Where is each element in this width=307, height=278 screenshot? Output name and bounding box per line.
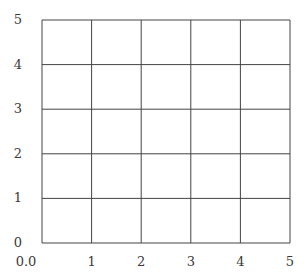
y-tick-label: 2	[11, 147, 25, 160]
y-tick-label: 3	[11, 102, 25, 115]
x-tick-label: 2	[127, 255, 155, 268]
coordinate-grid	[0, 0, 307, 278]
y-tick-label: 1	[11, 191, 25, 204]
x-tick-label: 1	[78, 255, 106, 268]
x-tick-label: 5	[276, 255, 304, 268]
y-tick-label: 0	[11, 236, 25, 249]
y-tick-label: 4	[11, 58, 25, 71]
y-tick-label: 5	[11, 13, 25, 26]
x-tick-label: 3	[177, 255, 205, 268]
x-tick-label: 0.0	[12, 255, 40, 268]
x-tick-label: 4	[226, 255, 254, 268]
